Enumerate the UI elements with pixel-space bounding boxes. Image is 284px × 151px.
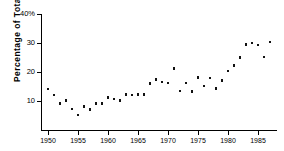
data-point <box>137 93 140 96</box>
data-point <box>203 85 206 88</box>
data-point <box>119 99 122 102</box>
data-point <box>95 102 98 105</box>
x-tick-label: 1950 <box>40 137 56 144</box>
data-point <box>185 82 188 85</box>
plot-area <box>42 14 276 130</box>
data-point <box>209 77 212 80</box>
x-tick-label: 1965 <box>130 137 146 144</box>
data-point <box>59 102 62 105</box>
x-tick <box>138 131 139 135</box>
x-tick <box>228 131 229 135</box>
data-point <box>89 108 92 111</box>
data-point <box>143 93 146 96</box>
x-axis-line <box>41 130 277 131</box>
data-point <box>131 94 134 97</box>
data-point <box>149 82 152 85</box>
data-point <box>221 79 224 82</box>
data-point <box>173 67 176 70</box>
x-tick <box>258 131 259 135</box>
data-point <box>263 56 266 59</box>
x-tick <box>198 131 199 135</box>
x-tick-label: 1980 <box>220 137 236 144</box>
data-point <box>77 114 80 117</box>
data-point <box>83 105 86 108</box>
y-tick-label: 40% <box>13 9 35 18</box>
data-point <box>197 76 200 79</box>
data-point <box>107 96 110 99</box>
data-point <box>125 93 128 96</box>
y-tick-label: 30 <box>13 38 35 47</box>
data-point <box>257 44 260 47</box>
data-point <box>239 56 242 59</box>
data-point <box>251 42 254 45</box>
x-tick <box>48 131 49 135</box>
data-point <box>269 41 272 44</box>
x-tick <box>108 131 109 135</box>
data-point <box>155 78 158 81</box>
data-point <box>53 94 56 97</box>
y-tick <box>37 101 41 102</box>
data-point <box>161 81 164 84</box>
data-point <box>215 87 218 90</box>
data-point <box>167 82 170 85</box>
scatter-chart: Percentage of Total Number 10203040%1950… <box>0 0 284 151</box>
data-point <box>245 43 248 46</box>
x-tick-label: 1985 <box>250 137 266 144</box>
x-tick-label: 1960 <box>100 137 116 144</box>
x-tick-label: 1970 <box>160 137 176 144</box>
data-point <box>113 98 116 101</box>
x-tick-label: 1955 <box>70 137 86 144</box>
data-point <box>179 90 182 93</box>
data-point <box>191 90 194 93</box>
data-point <box>233 64 236 67</box>
y-tick <box>37 72 41 73</box>
x-tick <box>78 131 79 135</box>
data-point <box>65 99 68 102</box>
y-tick-label: 10 <box>13 96 35 105</box>
data-point <box>101 102 104 105</box>
x-tick <box>168 131 169 135</box>
y-tick-label: 20 <box>13 67 35 76</box>
y-tick <box>37 43 41 44</box>
y-tick <box>37 14 41 15</box>
data-point <box>47 88 50 91</box>
data-point <box>227 70 230 73</box>
data-point <box>71 108 74 111</box>
x-tick-label: 1975 <box>190 137 206 144</box>
